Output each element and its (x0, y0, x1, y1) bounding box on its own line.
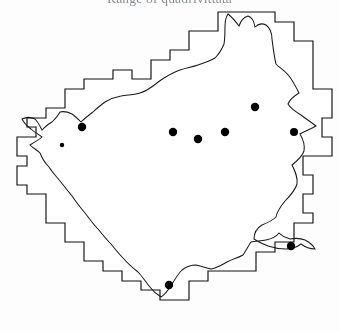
distribution-map (0, 6, 339, 331)
map-marker-record-1[interactable] (78, 123, 86, 131)
map-marker-record-3[interactable] (169, 128, 177, 136)
map-marker-record-8[interactable] (165, 281, 173, 289)
map-container (0, 6, 339, 331)
grid-block-border (17, 12, 332, 300)
map-marker-record-9[interactable] (60, 143, 64, 147)
map-marker-record-5[interactable] (194, 135, 202, 143)
map-marker-record-6[interactable] (290, 128, 298, 136)
figure-page: Range of quadrivittata (0, 0, 339, 331)
map-marker-record-4[interactable] (221, 128, 229, 136)
map-marker-record-2[interactable] (251, 103, 259, 111)
map-marker-record-7[interactable] (287, 242, 295, 250)
